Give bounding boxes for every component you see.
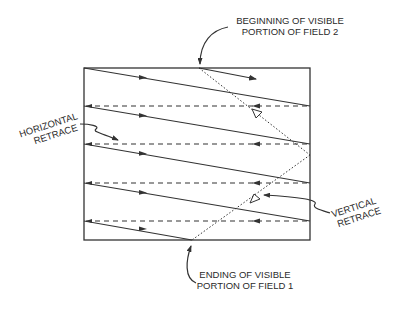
field1-label-line1: ENDING OF VISIBLE bbox=[199, 269, 290, 280]
scan-arrowheads bbox=[139, 75, 147, 231]
vretrace-callout-arrow bbox=[264, 195, 330, 213]
field1-label-line2: PORTION OF FIELD 1 bbox=[197, 280, 293, 291]
hretrace-callout-arrow bbox=[80, 124, 118, 140]
field2-label-line1: BEGINNING OF VISIBLE bbox=[236, 15, 344, 26]
vretrace-arrow-lower bbox=[250, 194, 260, 203]
vertical-retrace-path bbox=[192, 68, 310, 240]
vretrace-label: VERTICAL RETRACE bbox=[330, 194, 382, 230]
field1-callout-arrow bbox=[187, 246, 196, 283]
field2-callout-arrow bbox=[200, 27, 228, 64]
scan-lines bbox=[84, 68, 310, 240]
field2-label-line2: PORTION OF FIELD 2 bbox=[242, 26, 338, 37]
hretrace-label: HORIZONTAL RETRACE bbox=[18, 110, 82, 150]
interlace-diagram: BEGINNING OF VISIBLE PORTION OF FIELD 2 … bbox=[0, 0, 397, 309]
raster-frame bbox=[84, 68, 310, 240]
